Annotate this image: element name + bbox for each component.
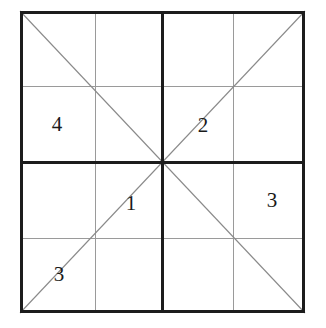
diagram-canvas: [0, 0, 326, 328]
square-grid-diagram: 4 2 1 3 3: [0, 0, 326, 328]
